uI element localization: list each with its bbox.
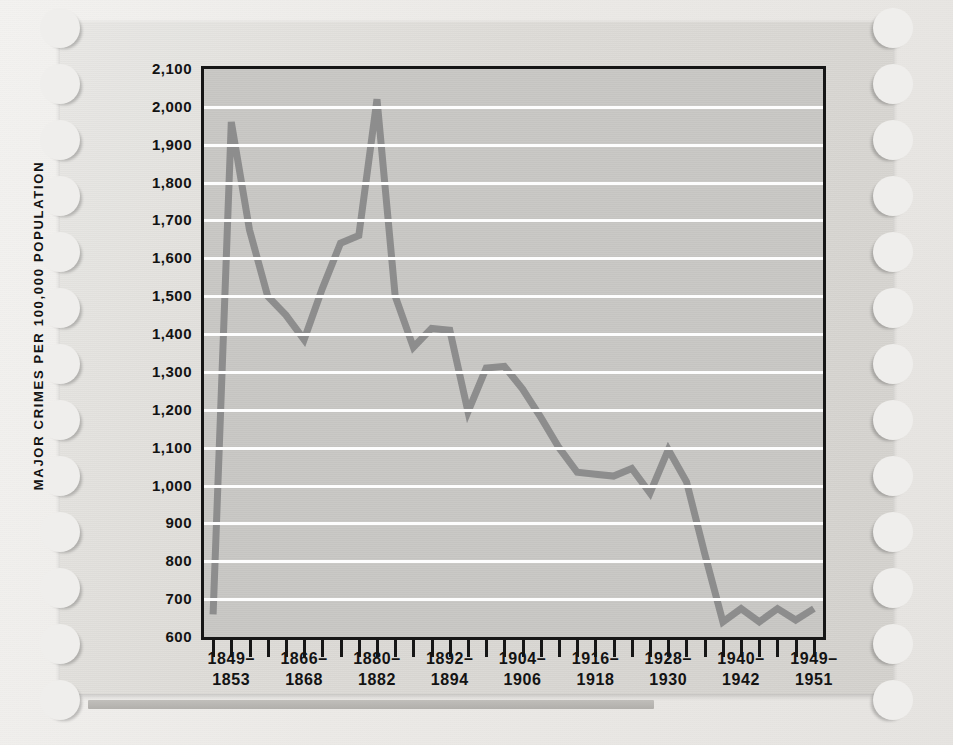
- data-line-chart: [204, 69, 823, 637]
- gridline: [204, 598, 823, 601]
- gridline: [204, 560, 823, 563]
- gridline: [204, 447, 823, 450]
- gridline: [204, 371, 823, 374]
- gridline: [204, 522, 823, 525]
- x-axis-tick-labels: 1849–18531866–18681880–18821892–18941904…: [0, 648, 953, 708]
- x-label-end-year: 1951: [766, 669, 862, 690]
- gridline: [204, 295, 823, 298]
- gridline: [204, 219, 823, 222]
- gridline: [204, 485, 823, 488]
- gridline: [204, 333, 823, 336]
- plot-area: [201, 66, 826, 640]
- x-axis-period-label: 1949–1951: [766, 648, 862, 690]
- gridline: [204, 409, 823, 412]
- gridline: [204, 144, 823, 147]
- scallop-edge-left: [59, 22, 93, 694]
- gridline: [204, 106, 823, 109]
- series-line-major-crimes: [213, 99, 814, 622]
- scallop-edge-right: [860, 22, 894, 694]
- gridline: [204, 182, 823, 185]
- y-axis-title: MAJOR CRIMES PER 100,000 POPULATION: [31, 116, 46, 536]
- x-label-start-year: 1949–: [766, 648, 862, 669]
- gridline: [204, 257, 823, 260]
